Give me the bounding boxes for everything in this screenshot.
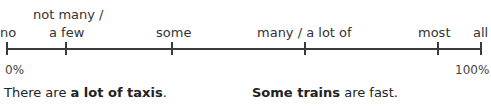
tick-many	[304, 42, 306, 55]
label-a-few: a few	[49, 25, 84, 40]
label-most: most	[418, 25, 451, 40]
scale-axis-line	[7, 48, 482, 50]
example-1-end: .	[163, 85, 167, 100]
example-sentence-2: Some trains are fast.	[252, 85, 398, 100]
label-many-a-lot-of: many / a lot of	[257, 25, 352, 40]
label-no: no	[0, 25, 16, 40]
tick-most	[437, 42, 439, 55]
tick-no	[6, 42, 8, 55]
percent-start: 0%	[5, 63, 24, 77]
example-1-text: There are	[4, 85, 71, 100]
tick-all	[480, 42, 482, 55]
label-not-many-line1: not many /	[33, 7, 104, 22]
tick-a-few	[65, 42, 67, 55]
percent-end: 100%	[455, 63, 489, 77]
example-sentence-1: There are a lot of taxis.	[4, 85, 167, 100]
example-2-highlight: Some trains	[252, 85, 340, 100]
label-some: some	[156, 25, 191, 40]
example-1-highlight: a lot of taxis	[71, 85, 163, 100]
example-2-end: are fast.	[340, 85, 398, 100]
tick-some	[171, 42, 173, 55]
label-all: all	[473, 25, 488, 40]
